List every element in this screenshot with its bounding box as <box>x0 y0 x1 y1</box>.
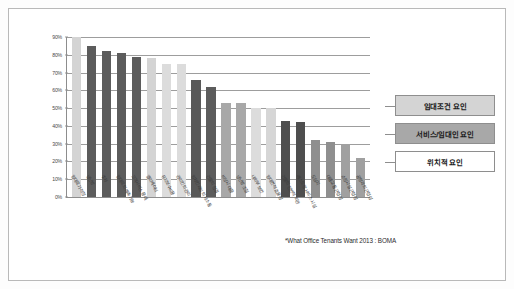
legend-leader-line <box>385 106 396 107</box>
legend-item-label: 임대조건 요인 <box>424 100 467 111</box>
y-tick-label: 60% <box>52 87 62 93</box>
legend-item[interactable]: 위치적 요인 <box>395 151 495 172</box>
x-axis-label: 주차 <box>100 173 109 183</box>
x-axis-label: 도심지 <box>310 173 321 186</box>
x-label-slot: 임대면적 효율성 <box>262 171 277 233</box>
slide-root: 90%80%70%60%50%40%30%20%10%0% 임대료가 적정냉난방… <box>0 0 514 289</box>
x-label-slot: 건물의 전반적 외관 <box>277 171 292 233</box>
legend-leader-line <box>385 162 396 163</box>
x-label-slot: 엘리베이터 <box>143 171 158 233</box>
x-axis-label: 공항과의 근접성 <box>354 173 373 201</box>
x-label-slot: 건물의 청결 <box>203 171 218 233</box>
y-tick-label: 20% <box>52 158 62 164</box>
chart-legend: 임대조건 요인서비스/임대인 요인위치적 요인 <box>395 95 495 179</box>
x-axis-label: 냉난방 <box>85 173 96 186</box>
x-label-slot: 주차 <box>98 171 113 233</box>
x-label-slot: 내외부 보안 <box>247 171 262 233</box>
y-tick-label: 80% <box>52 52 62 58</box>
legend-item[interactable]: 서비스/임대인 요인 <box>395 123 495 144</box>
x-label-slot: 유지보수비용 <box>158 171 173 233</box>
y-tick-label: 30% <box>52 141 62 147</box>
x-label-slot: 고객서비스 응대 <box>128 171 143 233</box>
x-label-slot: 냉난방 조절 <box>232 171 247 233</box>
y-tick-label: 0% <box>55 194 62 200</box>
legend-leader-line <box>385 134 396 135</box>
legend-item-label: 서비스/임대인 요인 <box>416 128 474 139</box>
chart-frame: 90%80%70%60%50%40%30%20%10%0% 임대료가 적정냉난방… <box>8 8 506 281</box>
y-tick-label: 50% <box>52 105 62 111</box>
y-tick-label: 10% <box>52 176 62 182</box>
x-label-slot: 임차인과의 의사소통 <box>188 171 203 233</box>
x-label-slot: 냉난방 <box>83 171 98 233</box>
x-label-slot: 임대료의 예측가능 <box>113 171 128 233</box>
y-axis: 90%80%70%60%50%40%30%20%10%0% <box>39 37 65 197</box>
x-label-slot: 쇼핑시설 근접성 <box>337 171 352 233</box>
x-label-slot: 대중교통 근접성 <box>322 171 337 233</box>
x-label-slot: 비상시 대응 <box>218 171 233 233</box>
y-tick-label: 70% <box>52 70 62 76</box>
y-tick-label: 90% <box>52 34 62 40</box>
x-label-slot: 레스토랑 서비스 시설 <box>292 171 307 233</box>
chart-footnote: *What Office Tenants Want 2013 : BOMA <box>285 237 396 244</box>
x-label-slot: 임대료가 적정 <box>68 171 83 233</box>
y-tick-label: 40% <box>52 123 62 129</box>
x-axis-labels: 임대료가 적정냉난방주차임대료의 예측가능고객서비스 응대엘리베이터유지보수비용… <box>66 171 369 233</box>
legend-item-label: 위치적 요인 <box>427 156 463 167</box>
x-label-slot: 도심지 <box>307 171 322 233</box>
x-label-slot: 관리인의 관리 <box>173 171 188 233</box>
legend-item[interactable]: 임대조건 요인 <box>395 95 495 116</box>
x-label-slot: 공항과의 근접성 <box>352 171 367 233</box>
